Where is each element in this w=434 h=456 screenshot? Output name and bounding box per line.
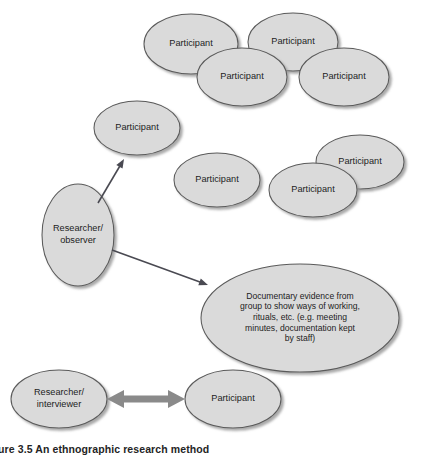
arrowhead-observer-to-documentary-evidence-end (198, 279, 208, 286)
connector-observer-to-participant-left (98, 163, 121, 203)
node-label-researcher-interviewer: Researcher/interviewer (34, 388, 84, 409)
node-label-participant-top-2: Participant (271, 36, 315, 46)
arrowhead-interviewer-to-participant-start (107, 390, 124, 408)
figure-caption: Figure 3.5 An ethnographic research meth… (0, 443, 434, 456)
node-label-participant-middle: Participant (195, 174, 239, 184)
node-label-participant-top-4: Participant (322, 71, 366, 81)
node-label-participant-top-3: Participant (220, 71, 264, 81)
node-label-participant-right-upper: Participant (338, 156, 382, 166)
node-label-participant-top-1: Participant (169, 38, 213, 48)
ethnographic-method-diagram: ParticipantParticipantParticipantPartici… (0, 0, 434, 456)
node-label-participant-right-lower: Participant (291, 184, 335, 194)
node-label-participant-left: Participant (115, 122, 159, 132)
connector-observer-to-documentary-evidence (112, 250, 203, 283)
arrowhead-observer-to-participant-left-end (116, 159, 124, 169)
node-label-participant-interviewee: Participant (211, 393, 255, 403)
figure-root: ParticipantParticipantParticipantPartici… (0, 0, 434, 456)
arrowhead-interviewer-to-participant-end (168, 390, 185, 408)
